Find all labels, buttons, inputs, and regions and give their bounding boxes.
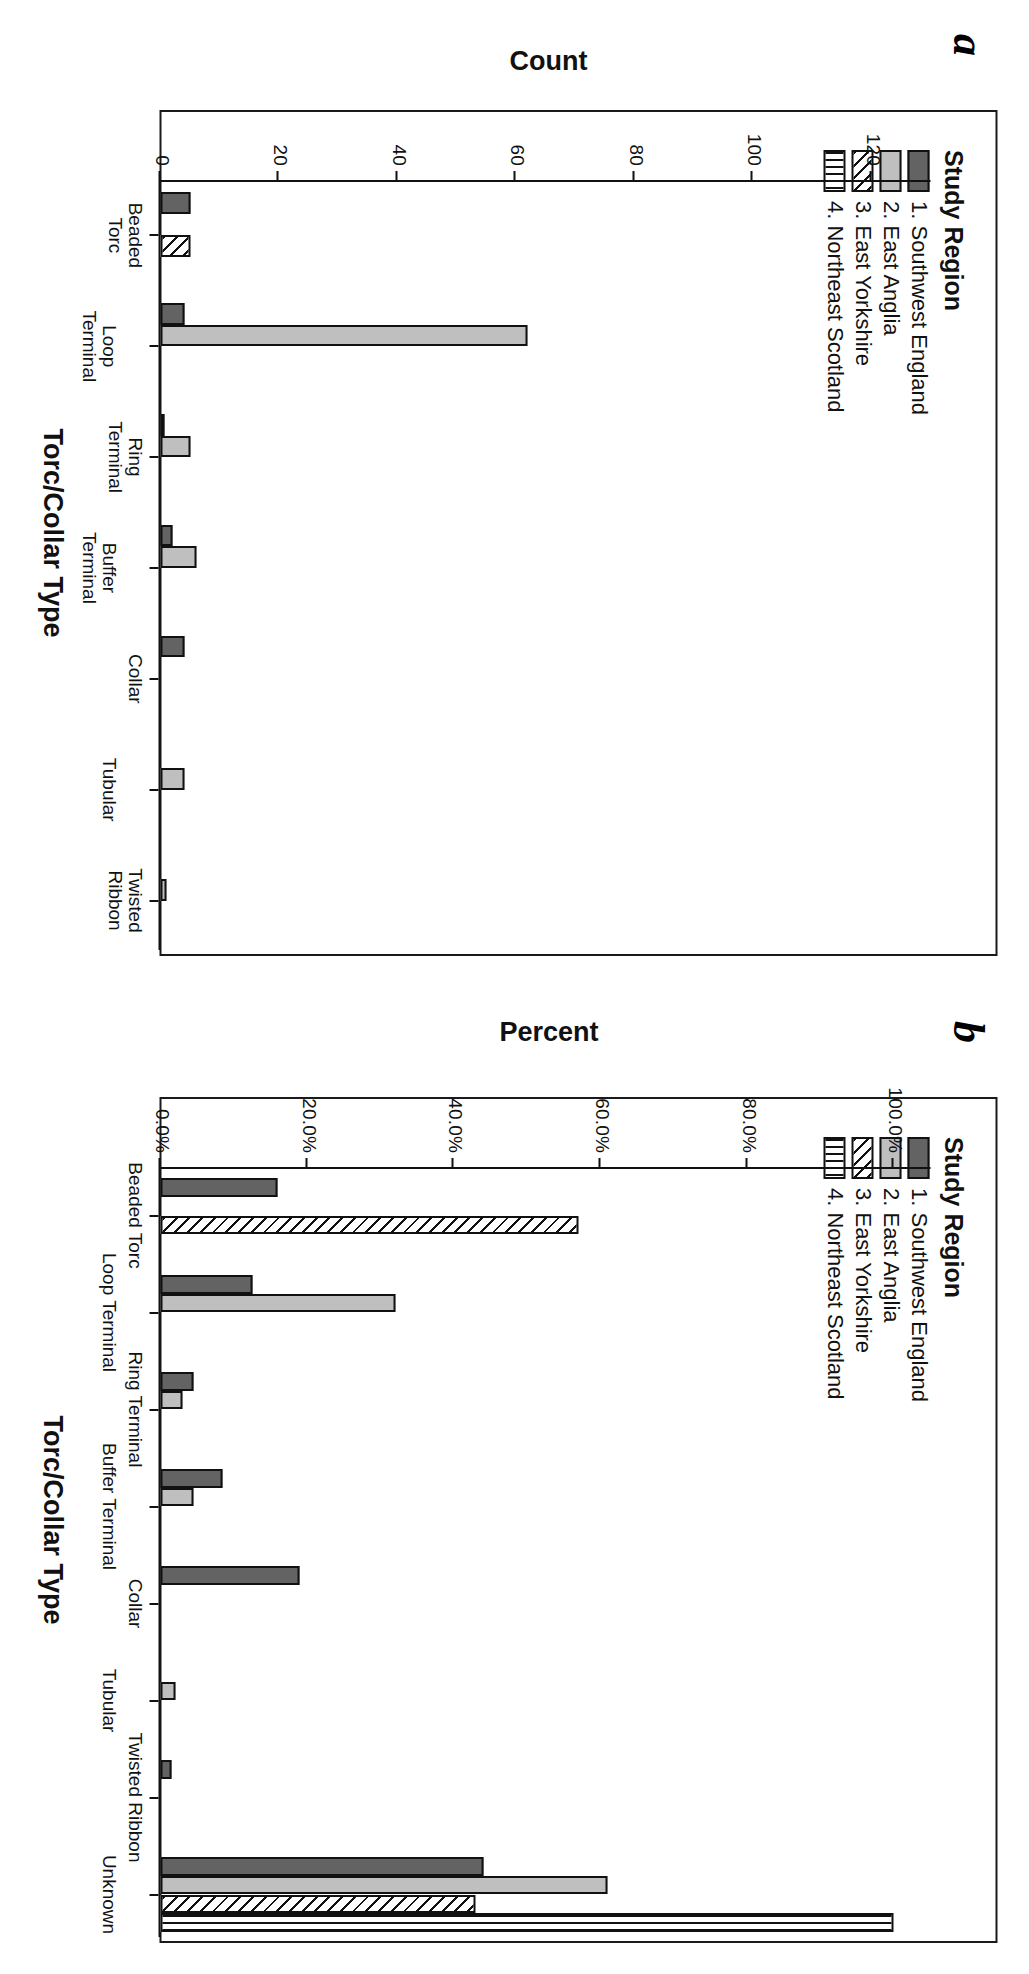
bar: [160, 636, 184, 658]
y-axis-tick: [632, 171, 634, 180]
x-axis-category-label: Beaded Torc: [124, 1126, 144, 1306]
panel-a-x-axis-title: Torc/Collar Type: [36, 110, 67, 956]
y-axis-tick: [158, 171, 160, 180]
bar: [160, 1876, 607, 1895]
bar: [160, 1760, 171, 1779]
y-axis-tick: [750, 171, 752, 180]
legend-item-east-yorkshire-b: 3. East Yorkshire: [849, 1137, 875, 1402]
x-axis-category-label: Unknown: [98, 1805, 118, 1974]
x-axis-tick: [149, 456, 158, 458]
y-axis-tick-label: 0: [150, 155, 172, 166]
legend-label-1b: 1. Southwest England: [905, 1188, 931, 1402]
y-axis-tick: [305, 1158, 307, 1167]
bar: [160, 546, 196, 568]
panel-b-y-axis-title: Percent: [499, 1017, 598, 1048]
legend-label-1: 1. Southwest England: [905, 201, 931, 415]
bar: [160, 1216, 578, 1235]
y-axis-tick-label: 60: [505, 144, 527, 166]
x-axis-tick: [149, 678, 158, 680]
x-axis-tick: [149, 1215, 158, 1217]
bar: [160, 1857, 483, 1876]
x-axis-category-label: Ring Terminal: [124, 1320, 144, 1500]
bar: [160, 1488, 193, 1507]
legend-swatch-icon-3b: [851, 1137, 873, 1179]
bar: [160, 879, 166, 901]
x-axis-tick: [149, 1506, 158, 1508]
x-axis-category-label: Loop Terminal: [98, 1223, 118, 1403]
x-axis-tick: [149, 1894, 158, 1896]
legend-item-southwest-england: 1. Southwest England: [905, 150, 931, 415]
y-axis-tick-label: 80: [624, 144, 646, 166]
bar: [160, 1178, 277, 1197]
legend-item-northeast-scotland: 4. Northeast Scotland: [821, 150, 847, 415]
legend-swatch-icon-1b: [907, 1137, 929, 1179]
bar: [160, 1566, 299, 1585]
x-axis-tick: [149, 1312, 158, 1314]
x-axis-category-label: Collar: [124, 589, 144, 769]
y-axis-tick-label: 0.0%: [150, 1109, 172, 1153]
legend-swatch-icon-1: [907, 150, 929, 192]
legend-swatch-icon-4: [823, 150, 845, 192]
y-axis-tick: [513, 171, 515, 180]
y-axis-line: [160, 1167, 930, 1169]
y-axis-tick: [598, 1158, 600, 1167]
panel-a-legend: Study Region 1. Southwest England 2. Eas…: [819, 150, 967, 415]
legend-label-4b: 4. Northeast Scotland: [821, 1188, 847, 1400]
bar: [160, 1469, 222, 1488]
panel-b: b Study Region 1. Southwest England 2. E…: [0, 987, 1029, 1974]
legend-label-2: 2. East Anglia: [877, 201, 903, 336]
bar: [160, 192, 190, 214]
legend-label-3b: 3. East Yorkshire: [849, 1188, 875, 1353]
x-axis-tick: [149, 567, 158, 569]
legend-item-southwest-england-b: 1. Southwest England: [905, 1137, 931, 1402]
x-axis-category-label: TwistedRibbon: [104, 811, 144, 991]
legend-item-east-anglia: 2. East Anglia: [877, 150, 903, 415]
legend-title: Study Region: [938, 150, 967, 415]
bar: [160, 1913, 893, 1932]
x-axis-category-label: Buffer Terminal: [98, 1417, 118, 1597]
bar: [160, 1391, 182, 1410]
panel-a-letter: a: [942, 34, 993, 56]
bar: [160, 525, 172, 547]
x-axis-tick: [149, 234, 158, 236]
legend-label-2b: 2. East Anglia: [877, 1188, 903, 1323]
panel-b-letter: b: [942, 1021, 993, 1043]
x-axis-category-label: BufferTerminal: [78, 478, 118, 658]
x-axis-category-label: Tubular: [98, 1611, 118, 1791]
y-axis-tick-label: 40.0%: [443, 1098, 465, 1153]
legend-item-east-anglia-b: 2. East Anglia: [877, 1137, 903, 1402]
y-axis-tick-label: 40: [387, 144, 409, 166]
y-axis-tick: [869, 171, 871, 180]
bar: [160, 414, 164, 436]
x-axis-tick: [149, 900, 158, 902]
y-axis-tick-label: 60.0%: [590, 1098, 612, 1153]
y-axis-tick-label: 20.0%: [297, 1098, 319, 1153]
y-axis-tick: [451, 1158, 453, 1167]
legend-label-4: 4. Northeast Scotland: [821, 201, 847, 413]
bar: [160, 1294, 395, 1313]
y-axis-tick-label: 80.0%: [737, 1098, 759, 1153]
bar: [160, 1372, 193, 1391]
legend-item-northeast-scotland-b: 4. Northeast Scotland: [821, 1137, 847, 1402]
x-axis-tick: [149, 1603, 158, 1605]
y-axis-tick-label: 120: [861, 134, 883, 166]
x-axis-category-label: Collar: [124, 1514, 144, 1694]
bar: [160, 303, 184, 325]
x-axis-category-label: Twisted Ribbon: [124, 1708, 144, 1888]
y-axis-tick: [158, 1158, 160, 1167]
bar: [160, 768, 184, 790]
legend-title-b: Study Region: [938, 1137, 967, 1402]
bar: [160, 1895, 475, 1914]
bar: [160, 1275, 252, 1294]
y-axis-tick: [891, 1158, 893, 1167]
x-axis-tick: [149, 789, 158, 791]
y-axis-line: [160, 180, 930, 182]
x-axis-tick: [149, 345, 158, 347]
legend-item-east-yorkshire: 3. East Yorkshire: [849, 150, 875, 415]
panel-a: a Study Region 1. Southwest England 2. E…: [0, 0, 1029, 987]
y-axis-tick: [745, 1158, 747, 1167]
x-axis-tick: [149, 1797, 158, 1799]
panel-b-x-axis-title: Torc/Collar Type: [36, 1097, 67, 1943]
y-axis-tick-label: 100.0%: [883, 1087, 905, 1153]
bar: [160, 436, 190, 458]
